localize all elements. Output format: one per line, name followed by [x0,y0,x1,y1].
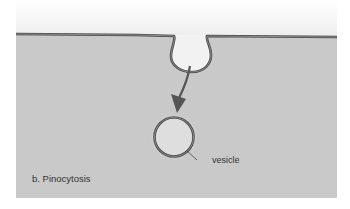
invagination-interior [173,35,209,70]
vesicle-label: vesicle [212,155,240,165]
vesicle [155,118,194,157]
diagram-canvas [16,0,337,198]
figure-caption: b. Pinocytosis [32,173,91,184]
pinocytosis-diagram: vesicle b. Pinocytosis [16,0,337,198]
